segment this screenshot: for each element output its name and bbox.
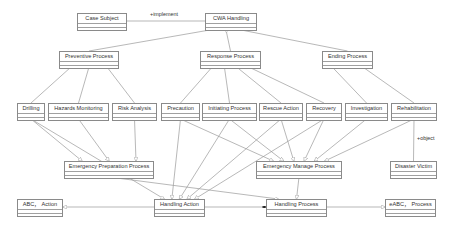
operations-compartment [257,176,341,178]
operations-compartment [391,176,436,178]
edge-association [31,67,71,103]
edge-generalization [181,119,274,161]
class-investigation[interactable]: Investigation [345,103,388,121]
class-name: Case Subject [78,14,126,24]
class-hazards-monitoring[interactable]: Hazards Monitoring [48,103,109,121]
class-name: Emergency Preparation Process [65,162,153,172]
operations-compartment [323,66,372,68]
operations-compartment [386,214,435,216]
class-name: Investigation [346,104,387,114]
class-cwa-handling[interactable]: CWA Handling [205,13,257,31]
class-drilling[interactable]: Drilling [17,103,45,121]
edge-association [414,119,415,161]
class-name: ABC， Action [18,200,62,210]
edge-generalization [79,119,110,161]
operations-compartment [307,118,341,120]
class-eabc-process[interactable]: eABC， Process [385,199,436,217]
class-name: eABC， Process [386,200,435,210]
class-name: Rehabilitation [392,104,436,114]
operations-compartment [60,66,118,68]
edge-association [107,67,135,103]
class-name: Disaster Victim [391,162,436,172]
edge-generalization [297,177,300,199]
operations-compartment [78,28,126,30]
class-response-process[interactable]: Response Process [200,51,261,69]
class-name: Rescue Action [260,104,302,114]
class-name: CWA Handling [206,14,256,24]
operations-compartment [392,118,436,120]
operations-compartment [113,118,156,120]
edge-aggregation [89,29,215,51]
operations-compartment [18,118,44,120]
edge-generalization [314,119,366,161]
operations-compartment [267,214,326,216]
class-ending-process[interactable]: Ending Process [322,51,373,69]
edge-generalization [172,119,181,199]
operations-compartment [162,118,199,120]
class-name: Initiating Process [203,104,256,114]
operations-compartment [203,118,256,120]
class-name: Response Process [201,52,260,62]
edge-aggregation [226,29,231,51]
operations-compartment [18,214,62,216]
class-emergency-preparation-process[interactable]: Emergency Preparation Process [64,161,154,179]
class-handling-action[interactable]: Handling Action [154,199,205,217]
operations-compartment [206,28,256,30]
class-name: Hazards Monitoring [49,104,108,114]
class-name: Drilling [18,104,44,114]
class-handling-process[interactable]: Handling Process [266,199,327,217]
edge-generalization [135,119,137,161]
class-name: Emergency Manage Process [257,162,341,172]
class-disaster-victim[interactable]: Disaster Victim [390,161,437,179]
class-case-subject[interactable]: Case Subject [77,13,127,31]
edge-generalization [195,119,324,199]
class-emergency-manage-process[interactable]: Emergency Manage Process [256,161,342,179]
uml-diagram-canvas: +implement +object Case Subject CWA Hand… [0,0,457,227]
operations-compartment [49,118,108,120]
object-label: +object [417,135,435,141]
class-abc-action[interactable]: ABC， Action [17,199,63,217]
class-name: Preventive Process [60,52,118,62]
edge-aggregation [236,29,347,51]
class-rescue-action[interactable]: Rescue Action [259,103,303,121]
class-recovery[interactable]: Recovery [306,103,342,121]
class-precaution[interactable]: Precaution [161,103,200,121]
class-name: Handling Process [267,200,326,210]
operations-compartment [65,176,153,178]
class-preventive-process[interactable]: Preventive Process [59,51,119,69]
class-risk-analysis[interactable]: Risk Analysis [112,103,157,121]
edge-association [79,67,90,103]
class-rehabilitation[interactable]: Rehabilitation [391,103,437,121]
edge-association [224,67,229,103]
edge-association [249,67,324,103]
edge-association [237,67,281,103]
operations-compartment [155,214,204,216]
edge-generalization [31,119,82,161]
class-name: Precaution [162,104,199,114]
edge-generalization [187,119,281,199]
class-initiating-process[interactable]: Initiating Process [202,103,257,121]
edge-generalization [325,119,414,161]
edge-generalization [281,119,294,161]
operations-compartment [260,118,302,120]
operations-compartment [346,118,387,120]
operations-compartment [201,66,260,68]
edge-association [332,67,366,103]
class-name: Recovery [307,104,341,114]
edge-generalization [109,177,278,199]
edge-generalization [31,119,164,199]
class-name: Handling Action [155,200,204,210]
edge-association [363,67,414,103]
class-name: Risk Analysis [113,104,156,114]
edge-association [181,67,213,103]
implement-label: +implement [150,11,178,17]
class-name: Ending Process [323,52,372,62]
